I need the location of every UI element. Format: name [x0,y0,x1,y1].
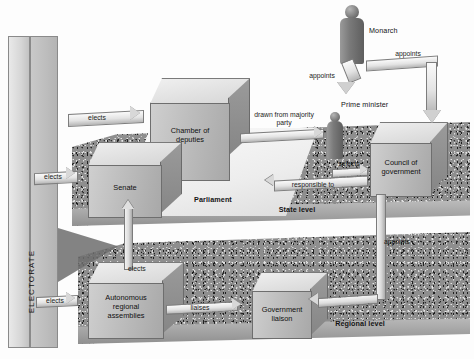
elects-chamber-arrow-head [130,106,140,120]
regional-level-label: Regional level [320,320,400,328]
parliament-level-label: Parliament [178,196,248,204]
responsible-to-arrow-label: responsible to [282,181,344,189]
council-of-government-label: Council of government [371,158,431,176]
council-appoints-liaison-pipe-v [376,194,386,300]
electorate-wall-face: ELECTORATE [8,36,30,348]
monarch-appoints-pm-arrow-head [337,82,355,94]
monarch-appoints-council-arrow-label: appoints [384,50,432,58]
monarch-head-icon [345,5,359,19]
government-structure-diagram: Parliament State level Regional level EL… [0,0,474,359]
prime-minister-body-icon [327,121,343,159]
monarch-appoints-council-arrow-v [426,62,437,114]
elects-chamber-arrow-label: elects [74,114,120,122]
monarch-label: Monarch [369,27,419,35]
council-appoints-liaison-arrow-label: appoints [384,238,430,246]
monarch-appoints-pm-arrow-label: appoints [300,72,344,80]
drawn-from-majority-party-arrow-head [314,126,323,138]
government-liaison-box-front: Government liaison [252,291,312,339]
monarch-body-icon [340,18,364,64]
council-appoints-liaison-arrow-head [309,293,318,305]
government-liaison-label: Government liaison [253,305,311,323]
elects-senate-from-assemblies-arrow-head [122,200,134,209]
chamber-of-deputies-label: Chamber of deputies [151,126,229,144]
autonomous-regional-assemblies-label: Autonomous regional assemblies [89,293,163,320]
assemblies-liaises-arrow-head [232,298,241,310]
state-level-label: State level [262,206,332,214]
electorate-label: ELECTORATE [27,232,36,332]
elects-senate-arrow-label: elects [36,173,70,181]
monarch-appoints-council-arrow-head [423,110,441,123]
autonomous-regional-assemblies-box-front: Autonomous regional assemblies [88,283,164,339]
elects-senate-from-assemblies-arrow-label: elects [128,265,160,273]
drawn-from-majority-party-arrow-label: drawn from majority party [242,111,326,126]
pm-selects-council-arrow-label: selects [332,160,366,168]
prime-minister-label: Prime minister [341,101,401,109]
elects-assemblies-arrow-label: elects [38,297,72,305]
responsible-to-arrow-head [265,174,274,186]
elects-senate-from-assemblies-pipe-v [124,208,133,270]
assemblies-liaises-arrow-label: liaises [178,304,222,312]
council-of-government-box-front: Council of government [370,143,432,197]
senate-label: Senate [89,183,161,192]
